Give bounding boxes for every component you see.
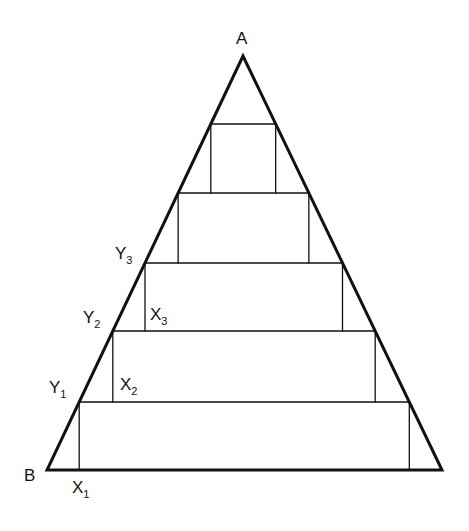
label-y1: Y1 [49, 378, 66, 400]
label-y2: Y2 [83, 308, 100, 330]
label-x1: X1 [72, 478, 89, 500]
diagram-shapes [47, 56, 442, 470]
label-y3: Y3 [115, 244, 132, 266]
triangle-diagram: ABY3Y2Y1X3X2X1 [0, 0, 469, 531]
label-b: B [24, 466, 35, 485]
label-x3: X3 [150, 305, 167, 327]
label-x2: X2 [120, 375, 137, 397]
diagram-labels: ABY3Y2Y1X3X2X1 [24, 29, 248, 500]
label-a: A [236, 29, 248, 48]
